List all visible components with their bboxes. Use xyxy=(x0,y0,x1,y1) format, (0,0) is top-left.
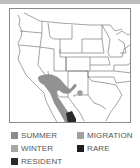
rare-swatch xyxy=(77,145,84,152)
summer-swatch xyxy=(11,132,18,139)
resident-swatch xyxy=(11,158,18,165)
winter-swatch xyxy=(11,145,18,152)
state-borders xyxy=(18,13,131,123)
legend-label: WINTER xyxy=(21,144,53,153)
range-shading xyxy=(38,74,83,123)
legend-label: SUMMER xyxy=(21,131,57,140)
range-map xyxy=(9,8,131,123)
resident-range xyxy=(66,111,76,123)
top-border xyxy=(0,0,140,4)
map-svg xyxy=(10,9,131,123)
map-legend: SUMMER WINTER RESIDENT MIGRATION RARE xyxy=(11,129,136,167)
migration-swatch xyxy=(77,132,84,139)
legend-label: RARE xyxy=(87,144,110,153)
legend-label: RESIDENT xyxy=(21,157,62,166)
legend-label: MIGRATION xyxy=(87,131,133,140)
legend-rare: RARE xyxy=(77,142,110,154)
legend-winter: WINTER xyxy=(11,142,53,154)
legend-migration: MIGRATION xyxy=(77,129,133,141)
legend-resident: RESIDENT xyxy=(11,155,62,167)
legend-summer: SUMMER xyxy=(11,129,57,141)
migration-spot xyxy=(77,90,83,96)
